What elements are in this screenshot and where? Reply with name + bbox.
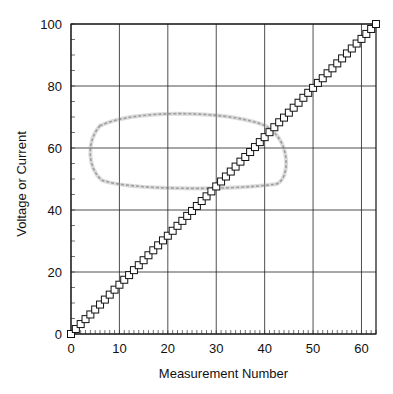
y-tick-label: 20 [48,265,62,280]
x-tick-labels: 0102030405060 [67,341,368,356]
y-tick-labels: 020406080100 [40,17,62,342]
y-tick-label: 60 [48,141,62,156]
x-tick-label: 20 [161,341,175,356]
y-tick-label: 40 [48,203,62,218]
x-tick-label: 50 [306,341,320,356]
x-tick-label: 60 [354,341,368,356]
x-axis-title: Measurement Number [159,366,289,381]
y-tick-label: 80 [48,79,62,94]
data-point-marker [373,21,380,28]
y-tick-label: 0 [55,327,62,342]
x-tick-label: 0 [67,341,74,356]
x-tick-label: 40 [257,341,271,356]
y-axis-title: Voltage or Current [14,131,29,237]
x-tick-label: 10 [112,341,126,356]
chart-canvas: 0102030405060 020406080100 Measurement N… [0,0,393,394]
data-markers [68,21,380,338]
y-tick-label: 100 [40,17,62,32]
x-tick-label: 30 [209,341,223,356]
